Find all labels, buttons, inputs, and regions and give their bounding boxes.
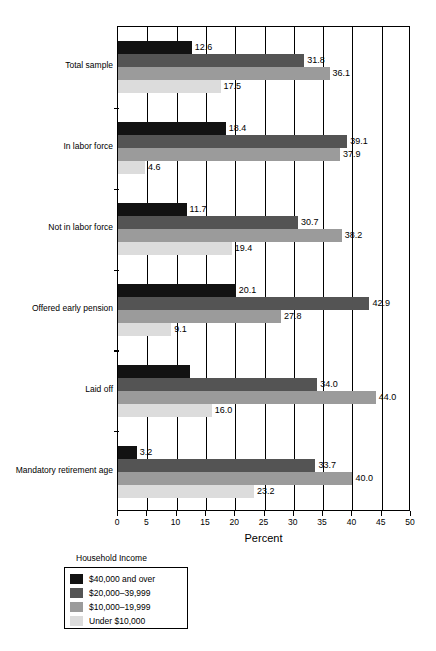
legend-label: $40,000 and over [89, 574, 155, 584]
legend-swatch [70, 602, 83, 612]
gridline [323, 27, 324, 510]
gridline [177, 27, 178, 510]
bar-group: 3.233.740.023.2 [118, 446, 409, 498]
gridline [206, 27, 207, 510]
legend-label: Under $10,000 [89, 616, 145, 626]
bar-value-label: 34.0 [317, 378, 338, 391]
x-axis-tick [293, 511, 294, 516]
x-axis-tick [205, 511, 206, 516]
bar-value-label: 27.8 [281, 310, 302, 323]
bar-value-label: 16.0 [212, 404, 233, 417]
bar-value-label: 3.2 [137, 446, 153, 459]
bar-value-label: 36.1 [330, 67, 351, 80]
bar-group: 20.142.927.89.1 [118, 284, 409, 336]
category-axis-labels: Total sampleIn labor forceNot in labor f… [3, 26, 113, 511]
category-tick [114, 270, 119, 271]
bar [118, 242, 232, 255]
bar-value-label: 39.1 [347, 135, 368, 148]
x-axis-tick-label: 10 [171, 517, 180, 527]
bar [118, 203, 187, 216]
legend-swatch [70, 616, 83, 626]
category-label: Mandatory retirement age [3, 465, 113, 475]
bar-value-label: 37.9 [340, 148, 361, 161]
legend-item: $20,000–39,999 [70, 586, 187, 599]
x-axis-tick-label: 5 [144, 517, 149, 527]
x-axis-tick-label: 50 [405, 517, 414, 527]
x-axis-tick-label: 45 [376, 517, 385, 527]
legend-swatch [70, 574, 83, 584]
x-axis-tick [117, 511, 118, 516]
x-axis-title: Percent [117, 532, 410, 544]
bar-group: 11.730.738.219.4 [118, 203, 409, 255]
bar-value-label: 44.0 [376, 391, 397, 404]
bar-value-label: 19.4 [232, 242, 253, 255]
bar-group: 18.439.137.94.6 [118, 122, 409, 174]
category-tick [114, 189, 119, 190]
bar-value-label: 11.7 [187, 203, 207, 216]
bar [118, 161, 145, 174]
plot-area: 12.631.836.117.518.439.137.94.611.730.73… [117, 26, 410, 511]
bar [118, 284, 236, 297]
bar-value-label: 18.4 [226, 122, 247, 135]
bar-value-label: 33.7 [315, 459, 336, 472]
bar [118, 122, 226, 135]
bar [118, 323, 171, 336]
legend-label: $10,000–19,999 [89, 602, 150, 612]
x-axis-tick [176, 511, 177, 516]
legend-item: $40,000 and over [70, 572, 187, 585]
bar-value-label: 20.1 [236, 284, 257, 297]
bar [118, 297, 369, 310]
bar [118, 378, 317, 391]
category-label: Offered early pension [3, 303, 113, 313]
gridline [382, 27, 383, 510]
gridline [147, 27, 148, 510]
x-axis-tick-label: 0 [115, 517, 120, 527]
bar-value-label: 23.2 [254, 485, 275, 498]
category-tick [114, 431, 119, 432]
bar-value-label: 31.8 [304, 54, 325, 67]
bar-value-label: 4.6 [145, 161, 161, 174]
gridline [235, 27, 236, 510]
bar-group: 12.631.836.117.5 [118, 41, 409, 93]
x-axis-tick-label: 20 [229, 517, 238, 527]
category-tick [114, 350, 119, 351]
x-axis-tick-label: 35 [317, 517, 326, 527]
gridline [352, 27, 353, 510]
category-label: Laid off [3, 384, 113, 394]
bar [118, 67, 330, 80]
legend-item: Under $10,000 [70, 614, 187, 627]
bar-group: 34.044.016.0 [118, 365, 409, 417]
x-axis-tick [234, 511, 235, 516]
bar-value-label: 17.5 [221, 80, 242, 93]
legend-title: Household Income [76, 553, 147, 563]
bar [118, 485, 254, 498]
x-axis-tick [410, 511, 411, 516]
x-axis-tick [381, 511, 382, 516]
chart-figure: Total sampleIn labor forceNot in labor f… [0, 0, 436, 651]
bar [118, 404, 212, 417]
x-axis-tick [322, 511, 323, 516]
gridline [265, 27, 266, 510]
bar-value-label: 40.0 [352, 472, 373, 485]
bar-value-label: 38.2 [342, 229, 363, 242]
legend-swatch [70, 588, 83, 598]
bar [118, 135, 347, 148]
bar [118, 310, 281, 323]
bar [118, 229, 342, 242]
x-axis-tick-label: 30 [288, 517, 297, 527]
bar [118, 472, 352, 485]
bar [118, 459, 315, 472]
x-axis-tick-label: 25 [259, 517, 268, 527]
bar-value-label: 42.9 [369, 297, 390, 310]
bar [118, 80, 221, 93]
x-axis-tick-label: 15 [200, 517, 209, 527]
bar [118, 54, 304, 67]
bar-value-label: 12.6 [192, 41, 213, 54]
legend: $40,000 and over$20,000–39,999$10,000–19… [64, 567, 188, 629]
bar [118, 148, 340, 161]
bar [118, 216, 298, 229]
x-axis-tick [146, 511, 147, 516]
x-axis-tick [351, 511, 352, 516]
bar-value-label: 9.1 [171, 323, 187, 336]
category-label: Not in labor force [3, 222, 113, 232]
